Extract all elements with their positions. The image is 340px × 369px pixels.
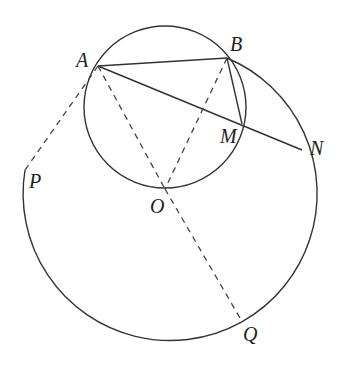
segment-OQ	[165, 189, 240, 318]
label-M: M	[219, 125, 238, 147]
small-circle	[84, 26, 246, 188]
label-A: A	[74, 49, 89, 71]
label-Q: Q	[243, 323, 258, 345]
segment-AO	[98, 66, 165, 189]
label-B: B	[230, 33, 242, 55]
segment-AP	[25, 66, 98, 170]
large-circle-arc	[23, 58, 317, 341]
geometry-diagram: A B M N O P Q	[0, 0, 340, 369]
label-N: N	[309, 137, 325, 159]
segment-AN	[98, 66, 302, 150]
segment-BM	[227, 58, 242, 124]
diagram-svg: A B M N O P Q	[0, 0, 340, 369]
label-P: P	[28, 170, 41, 192]
label-O: O	[150, 195, 164, 217]
segment-AB	[98, 58, 227, 66]
